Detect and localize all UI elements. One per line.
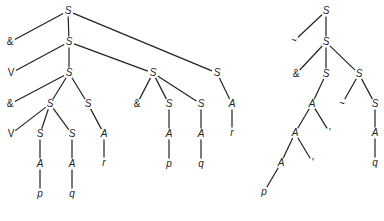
tree-node: S	[214, 68, 221, 78]
tree-node: A	[69, 159, 76, 169]
tree-edge	[283, 138, 292, 158]
tree-edge	[68, 16, 69, 36]
tree-edge	[140, 78, 151, 99]
tree-node: A	[372, 128, 379, 138]
tree-node: S	[150, 68, 157, 78]
tree-node: A	[292, 128, 299, 138]
tree-node: ~	[291, 36, 297, 46]
tree-edge	[16, 45, 64, 71]
tree-edge	[298, 109, 309, 129]
tree-node: S	[166, 99, 173, 109]
tree-node: q	[69, 189, 75, 199]
tree-node: A	[229, 99, 236, 109]
tree-edge	[158, 76, 197, 101]
tree-node: S	[66, 37, 73, 47]
tree-node: &	[7, 37, 14, 47]
tree-node: p	[166, 159, 172, 169]
tree-node: r	[230, 128, 233, 138]
tree-edge	[91, 109, 102, 129]
tree-node: S	[85, 99, 92, 109]
tree-node: p	[261, 187, 267, 197]
tree-node: S	[323, 37, 330, 47]
tree-edge	[73, 13, 212, 71]
tree-edge	[219, 78, 229, 99]
tree-edge	[314, 79, 323, 99]
tree-edges	[0, 0, 384, 221]
tree-edge	[315, 109, 327, 129]
tree-node: '	[312, 158, 314, 168]
tree-node: A	[309, 99, 316, 109]
tree-edge	[15, 14, 63, 40]
tree-node: '	[329, 128, 331, 138]
tree-node: p	[37, 189, 43, 199]
tree-node: A	[101, 129, 108, 139]
tree-node: &	[7, 99, 14, 109]
tree-edge	[53, 108, 68, 129]
tree-edge	[298, 15, 322, 37]
tree-node: S	[356, 69, 363, 79]
tree-node: A	[198, 129, 205, 139]
tree-edge	[330, 46, 355, 70]
tree-node: S	[372, 99, 379, 109]
tree-node: S	[66, 68, 73, 78]
tree-node: &	[134, 99, 141, 109]
tree-edge	[298, 138, 310, 159]
tree-node: &	[293, 69, 300, 79]
tree-edge	[15, 76, 64, 102]
tree-node: A	[166, 129, 173, 139]
parse-tree-diagram: S&SVSSS&SS&SSAVSSAAArAArpqpqS~S&SSA~SA'A…	[0, 0, 384, 221]
tree-node: q	[198, 159, 204, 169]
tree-node: S	[323, 6, 330, 16]
tree-node: S	[69, 129, 76, 139]
tree-edge	[72, 78, 85, 100]
tree-node: S	[198, 99, 205, 109]
tree-edge	[345, 79, 357, 99]
tree-edge	[362, 79, 373, 99]
tree-node: r	[102, 158, 105, 168]
tree-node: S	[47, 99, 54, 109]
tree-node: V	[8, 68, 15, 78]
tree-node: S	[65, 6, 72, 16]
tree-node: A	[278, 158, 285, 168]
tree-edge	[74, 44, 148, 71]
tree-edge	[267, 168, 278, 188]
tree-node: S	[323, 69, 330, 79]
tree-node: q	[372, 158, 378, 168]
tree-edge	[300, 46, 322, 70]
tree-edge	[42, 109, 49, 129]
tree-node: V	[8, 129, 15, 139]
tree-node: S	[37, 129, 44, 139]
tree-node: A	[37, 159, 44, 169]
tree-node: ~	[339, 99, 345, 109]
